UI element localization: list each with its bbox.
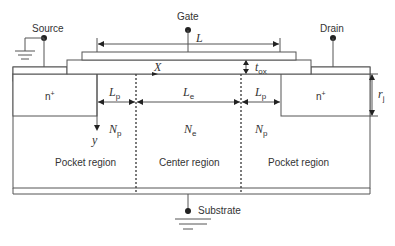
gate-electrode (82, 52, 296, 60)
substrate-terminal-dot (185, 208, 191, 214)
svg-text:rj: rj (378, 87, 385, 103)
right-pocket-region-label: Pocket region (268, 157, 329, 168)
x-axis-label: X (153, 60, 162, 74)
gate-oxide (67, 60, 311, 74)
gate-label: Gate (177, 11, 199, 22)
source-label: Source (32, 23, 64, 34)
substrate-ground-icon (175, 219, 211, 229)
source-n-plus-region (13, 74, 97, 116)
y-axis-label: y (91, 133, 98, 147)
mosfet-cross-section-diagram: Source Gate L Drain tox rj X y Lp (0, 0, 395, 246)
left-pocket-region-label: Pocket region (55, 157, 116, 168)
center-region-label: Center region (159, 157, 220, 168)
drain-label: Drain (320, 23, 344, 34)
drain-contact (311, 67, 370, 74)
source-ground-icon (15, 51, 35, 59)
substrate-label: Substrate (198, 205, 241, 216)
gate-length-label: L (195, 31, 203, 45)
source-contact (13, 67, 67, 74)
